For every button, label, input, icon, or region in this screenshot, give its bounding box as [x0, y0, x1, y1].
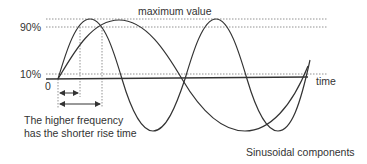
diagram-canvas: maximum value 90% 10% 0 time The higher …	[0, 0, 367, 164]
caption-line-2: has the shorter rise time	[24, 127, 137, 139]
maximum-value-label: maximum value	[138, 5, 212, 17]
time-axis	[46, 77, 308, 79]
figure-caption: Sinusoidal components	[246, 146, 355, 158]
origin-label: 0	[45, 80, 51, 92]
sinusoid-rise-time-diagram: maximum value 90% 10% 0 time The higher …	[0, 0, 367, 164]
time-axis-label: time	[316, 75, 336, 87]
ten-percent-label: 10%	[20, 68, 41, 80]
ninety-percent-label: 90%	[20, 21, 41, 33]
caption-line-1: The higher frequency	[24, 114, 124, 126]
